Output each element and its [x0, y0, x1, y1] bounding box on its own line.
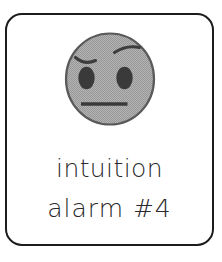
caption-line-2: alarm #4: [7, 189, 212, 229]
right-eye-icon: [116, 67, 132, 89]
caption: intuition alarm #4: [7, 149, 212, 229]
caption-line-1: intuition: [7, 149, 212, 189]
left-eye-icon: [78, 67, 94, 89]
emoji-caption-card: intuition alarm #4: [5, 13, 214, 246]
emoji-face: [64, 32, 156, 126]
face-with-raised-eyebrow-icon: [64, 32, 156, 126]
